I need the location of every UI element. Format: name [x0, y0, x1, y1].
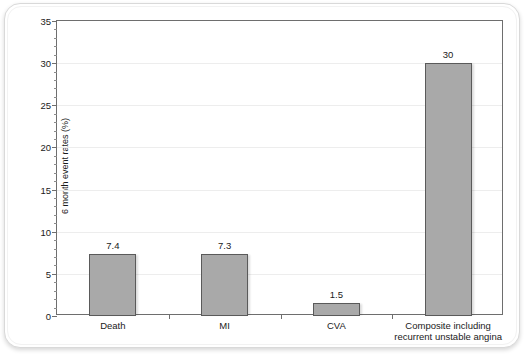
plot-area: 6 month event rates (%) 05101520253035 7…: [56, 20, 503, 315]
y-tick-major: [52, 147, 57, 148]
x-axis-category-label: Death: [100, 320, 125, 331]
x-axis-category-label: CVA: [327, 320, 346, 331]
y-tick-minor: [54, 38, 57, 39]
y-tick-minor: [54, 80, 57, 81]
y-tick-major: [52, 232, 57, 233]
bar: [313, 303, 360, 316]
y-tick-minor: [54, 72, 57, 73]
y-tick-minor: [54, 173, 57, 174]
bar-value-label: 7.3: [218, 240, 231, 251]
y-tick-minor: [54, 131, 57, 132]
y-tick-minor: [54, 257, 57, 258]
y-tick-minor: [54, 206, 57, 207]
y-tick-label: 0: [46, 311, 51, 322]
y-tick-minor: [54, 55, 57, 56]
y-tick-major: [52, 63, 57, 64]
y-axis-title: 6 month event rates (%): [60, 16, 70, 316]
x-tick: [169, 314, 170, 319]
y-tick-minor: [54, 139, 57, 140]
y-tick-major: [52, 316, 57, 317]
y-tick-minor: [54, 223, 57, 224]
y-tick-minor: [54, 181, 57, 182]
y-tick-major: [52, 105, 57, 106]
x-axis-category-label: Composite includingrecurrent unstable an…: [394, 320, 502, 342]
y-tick-minor: [54, 122, 57, 123]
y-tick-minor: [54, 282, 57, 283]
bar-value-label: 30: [443, 49, 454, 60]
y-tick-minor: [54, 215, 57, 216]
y-tick-label: 10: [40, 226, 51, 237]
y-tick-minor: [54, 164, 57, 165]
y-tick-minor: [54, 97, 57, 98]
x-tick: [392, 314, 393, 319]
y-tick-minor: [54, 265, 57, 266]
x-tick: [281, 314, 282, 319]
y-tick-label: 25: [40, 100, 51, 111]
y-tick-minor: [54, 114, 57, 115]
bar: [201, 254, 248, 316]
y-tick-minor: [54, 88, 57, 89]
x-axis-category-label: MI: [219, 320, 230, 331]
y-tick-minor: [54, 249, 57, 250]
bar-value-label: 7.4: [106, 240, 119, 251]
y-tick-label: 35: [40, 16, 51, 27]
y-tick-label: 20: [40, 142, 51, 153]
bar: [425, 63, 472, 316]
y-tick-label: 5: [46, 268, 51, 279]
y-tick-minor: [54, 240, 57, 241]
y-tick-label: 15: [40, 184, 51, 195]
y-tick-minor: [54, 299, 57, 300]
y-tick-major: [52, 190, 57, 191]
bar-chart: 6 month event rates (%) 05101520253035 7…: [0, 0, 526, 354]
y-tick-minor: [54, 291, 57, 292]
y-tick-minor: [54, 308, 57, 309]
y-tick-major: [52, 21, 57, 22]
bar-value-label: 1.5: [330, 289, 343, 300]
y-tick-label: 30: [40, 58, 51, 69]
y-tick-minor: [54, 198, 57, 199]
y-tick-minor: [54, 29, 57, 30]
y-tick-minor: [54, 46, 57, 47]
y-tick-major: [52, 274, 57, 275]
bar: [89, 254, 136, 316]
y-tick-minor: [54, 156, 57, 157]
